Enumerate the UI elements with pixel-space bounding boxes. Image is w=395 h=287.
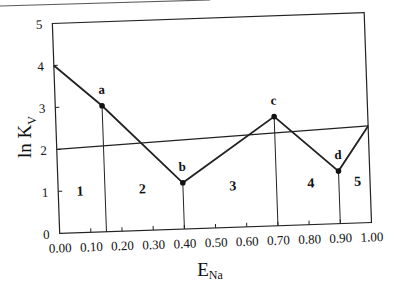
region-label: 5	[354, 174, 362, 189]
chart: 012345 0.000.100.200.300.400.500.600.700…	[0, 0, 395, 287]
plot-frame	[52, 13, 371, 234]
point-label: a	[98, 82, 106, 97]
x-tick-label: 0.20	[111, 238, 134, 254]
y-tick-label: 5	[36, 17, 43, 32]
divider-line	[183, 183, 185, 229]
x-tick-label: 0.10	[80, 239, 103, 255]
x-tick-label: 0.40	[173, 236, 196, 252]
x-tick-label: 0.50	[204, 235, 227, 251]
region-label: 1	[76, 183, 84, 198]
x-axis-label: ENa	[197, 259, 223, 282]
region-label: 4	[307, 175, 315, 190]
y-tick-label: 4	[37, 59, 45, 74]
scan-edge-line	[0, 0, 210, 6]
x-tick-label: 0.90	[329, 230, 352, 246]
divider-line	[102, 106, 106, 232]
main-polyline	[54, 55, 370, 188]
x-tick-label: 0.00	[49, 240, 72, 256]
vertical-dividers	[102, 98, 340, 232]
y-tick-label: 2	[40, 143, 47, 158]
y-tick-label: 0	[43, 227, 50, 242]
region-label: 2	[139, 181, 147, 196]
point-label: d	[334, 147, 343, 162]
point-label: c	[270, 92, 277, 107]
x-tick-label: 0.70	[267, 232, 290, 248]
y-axis-label: ln KV	[14, 116, 39, 158]
y-axis-ticks: 012345	[36, 16, 64, 242]
x-tick-label: 1.00	[360, 229, 383, 245]
x-tick-label: 0.80	[298, 231, 321, 247]
divider-line	[338, 171, 340, 223]
region-label: 3	[229, 178, 237, 193]
x-tick-label: 0.60	[236, 233, 259, 249]
data-series	[54, 55, 370, 188]
y-tick-label: 1	[41, 185, 48, 200]
y-tick-label: 3	[39, 101, 46, 116]
point-label: b	[178, 159, 186, 174]
x-tick-label: 0.30	[142, 237, 165, 253]
region-labels: 12345	[76, 174, 361, 199]
